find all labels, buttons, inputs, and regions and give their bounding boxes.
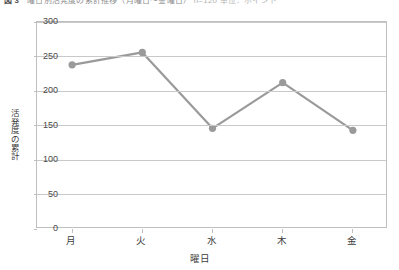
- gridline: [37, 160, 386, 161]
- data-point-marker[interactable]: [69, 61, 76, 68]
- data-point-marker[interactable]: [279, 79, 286, 86]
- y-axis-label: 150: [18, 120, 58, 130]
- y-axis-label: 200: [18, 85, 58, 95]
- data-point-marker[interactable]: [349, 127, 356, 134]
- gridline: [37, 125, 386, 126]
- y-axis-label: 100: [18, 154, 58, 164]
- y-axis-label: 250: [18, 51, 58, 61]
- y-axis-label: 0: [18, 223, 58, 233]
- x-axis-label: 月: [66, 233, 76, 247]
- gridline: [37, 56, 386, 57]
- x-axis-label: 火: [136, 233, 146, 247]
- y-axis-label: 50: [18, 189, 58, 199]
- x-axis-label: 金: [347, 233, 357, 247]
- gridline: [37, 194, 386, 195]
- x-axis-title: 曜日: [0, 251, 399, 265]
- plot-area: [36, 21, 387, 228]
- x-axis-label: 水: [207, 233, 217, 247]
- gridline: [37, 91, 386, 92]
- line-chart-figure: 活発度の累計 曜日 050100150200250300月火水木金: [0, 0, 399, 270]
- gridline: [37, 22, 386, 23]
- data-point-marker[interactable]: [139, 49, 146, 56]
- y-axis-label: 300: [18, 16, 58, 26]
- x-axis-label: 木: [277, 233, 287, 247]
